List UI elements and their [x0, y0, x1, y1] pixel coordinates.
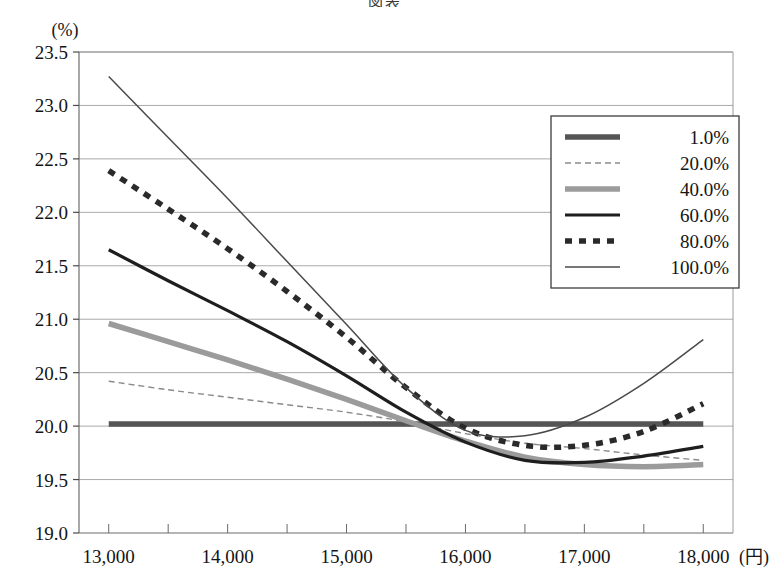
legend-label: 60.0% — [680, 205, 729, 226]
x-axis-tick-label: 17,000 — [558, 546, 610, 567]
x-axis-unit-label: (円) — [739, 547, 769, 568]
figure-title: 図表 — [0, 0, 770, 7]
y-axis-tick-label: 23.5 — [35, 42, 68, 63]
legend-label: 100.0% — [670, 257, 729, 278]
legend-label: 20.0% — [680, 153, 729, 174]
legend-label: 40.0% — [680, 179, 729, 200]
y-axis-unit-label: (%) — [52, 20, 79, 41]
y-axis-tick-label: 21.5 — [35, 256, 68, 277]
y-axis-tick-label: 23.0 — [35, 95, 68, 116]
chart-figure: 図表 19.019.520.020.521.021.522.022.523.02… — [0, 0, 770, 588]
y-axis-tick-label: 22.0 — [35, 202, 68, 223]
x-axis-tick-label: 13,000 — [83, 546, 135, 567]
y-axis-tick-label: 19.5 — [35, 470, 68, 491]
y-axis-tick-label: 21.0 — [35, 309, 68, 330]
legend-label: 80.0% — [680, 231, 729, 252]
x-axis-tick-label: 16,000 — [439, 546, 491, 567]
x-axis-tick-label: 15,000 — [320, 546, 372, 567]
x-axis-tick-label: 14,000 — [202, 546, 254, 567]
y-axis-tick-label: 20.5 — [35, 363, 68, 384]
legend-label: 1.0% — [689, 127, 729, 148]
y-axis-tick-label: 19.0 — [35, 523, 68, 544]
line-chart-canvas: 19.019.520.020.521.021.522.022.523.023.5… — [0, 0, 770, 588]
series-line-400 — [109, 324, 704, 467]
x-axis-tick-label: 18,000 — [677, 546, 729, 567]
y-axis-tick-label: 22.5 — [35, 149, 68, 170]
y-axis-tick-label: 20.0 — [35, 416, 68, 437]
